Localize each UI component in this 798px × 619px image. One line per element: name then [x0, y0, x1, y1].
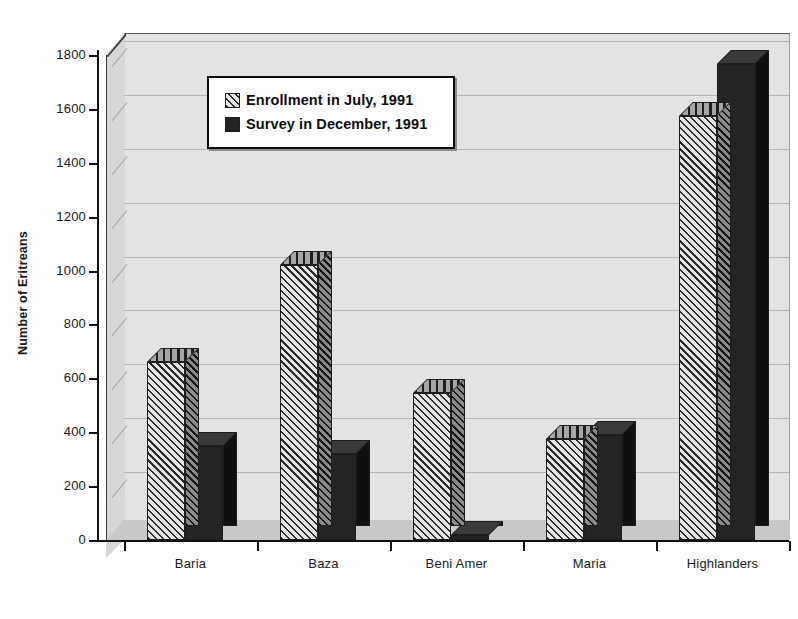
- y-axis-tick-label: 1400: [40, 155, 86, 170]
- y-axis-tick: [89, 486, 98, 488]
- y-axis-tick: [89, 378, 98, 380]
- x-axis-category-label: Highlanders: [687, 556, 759, 571]
- y-axis-tick: [89, 55, 98, 57]
- x-axis-tick: [390, 541, 392, 551]
- chart-page: 020040060080010001200140016001800 BariaB…: [0, 0, 798, 619]
- bar: [451, 535, 489, 540]
- bar-front-face: [546, 439, 584, 540]
- bar: [679, 116, 717, 540]
- y-axis-tick-label-wrap: 0: [0, 540, 86, 541]
- bar: [280, 265, 318, 540]
- x-axis-tick: [789, 541, 791, 551]
- x-axis-tick: [124, 541, 126, 551]
- x-axis-tick: [257, 541, 259, 551]
- y-axis-tick: [89, 163, 98, 165]
- x-axis-tick: [523, 541, 525, 551]
- x-axis-category-label: Baria: [175, 556, 206, 571]
- y-axis-tick-label-wrap: 1200: [0, 217, 86, 218]
- bar-front-face: [147, 362, 185, 540]
- y-axis-tick: [89, 109, 98, 111]
- chart-legend: Enrollment in July, 1991 Survey in Decem…: [207, 76, 455, 149]
- y-axis-tick-label-wrap: 600: [0, 378, 86, 379]
- y-axis-tick-label: 0: [40, 532, 86, 547]
- y-axis-tick-label: 1800: [40, 47, 86, 62]
- y-axis-tick: [89, 540, 98, 542]
- x-axis-category-label: Maria: [573, 556, 607, 571]
- y-axis-tick-label-wrap: 1600: [0, 109, 86, 110]
- y-axis-tick-label: 1000: [40, 263, 86, 278]
- bar: [413, 393, 451, 540]
- bar-side-face: [622, 421, 636, 526]
- y-axis-tick: [89, 324, 98, 326]
- bar-side-face: [755, 50, 769, 526]
- plot-left-wall: [106, 33, 125, 558]
- y-axis-tick-label-wrap: 800: [0, 324, 86, 325]
- bar-side-face: [451, 379, 465, 526]
- y-axis-tick-label: 1600: [40, 101, 86, 116]
- bar-chart: 020040060080010001200140016001800 BariaB…: [0, 0, 798, 619]
- solid-swatch-icon: [225, 117, 240, 132]
- y-axis-line: [97, 50, 99, 542]
- hatch-swatch-icon: [225, 93, 240, 108]
- bar-front-face: [280, 265, 318, 540]
- bar-front-face: [413, 393, 451, 540]
- legend-entry-label: Survey in December, 1991: [246, 116, 427, 132]
- y-axis-tick: [89, 432, 98, 434]
- bar-side-face: [717, 102, 731, 526]
- y-axis-tick-label-wrap: 1000: [0, 271, 86, 272]
- y-axis-tick-label-wrap: 1800: [0, 55, 86, 56]
- bar: [147, 362, 185, 540]
- legend-entry: Enrollment in July, 1991: [225, 88, 427, 112]
- y-axis-tick-label-wrap: 1400: [0, 163, 86, 164]
- y-axis-tick-label: 400: [40, 424, 86, 439]
- bar: [546, 439, 584, 540]
- gridline: [124, 41, 789, 42]
- bar-side-face: [356, 440, 370, 526]
- bar-side-face: [185, 348, 199, 526]
- x-axis-category-label: Beni Amer: [426, 556, 488, 571]
- y-axis-tick-label: 200: [40, 478, 86, 493]
- y-axis-title: Number of Eritreans: [16, 193, 30, 393]
- plot-left-edge: [106, 55, 107, 540]
- y-axis-tick-label: 800: [40, 316, 86, 331]
- y-axis-tick-label: 1200: [40, 209, 86, 224]
- y-axis-tick-label-wrap: 200: [0, 486, 86, 487]
- x-axis-tick: [656, 541, 658, 551]
- y-axis-tick: [89, 271, 98, 273]
- bar-front-face: [451, 535, 489, 540]
- x-axis-line: [97, 540, 789, 542]
- y-axis-tick: [89, 217, 98, 219]
- x-axis-category-label: Baza: [308, 556, 338, 571]
- bar-side-face: [318, 251, 332, 526]
- bar-front-face: [679, 116, 717, 540]
- bar-side-face: [223, 432, 237, 526]
- legend-entry-label: Enrollment in July, 1991: [246, 92, 413, 108]
- bar-side-face: [584, 425, 598, 526]
- legend-entry: Survey in December, 1991: [225, 112, 427, 136]
- y-axis-tick-label-wrap: 400: [0, 432, 86, 433]
- y-axis-tick-label: 600: [40, 370, 86, 385]
